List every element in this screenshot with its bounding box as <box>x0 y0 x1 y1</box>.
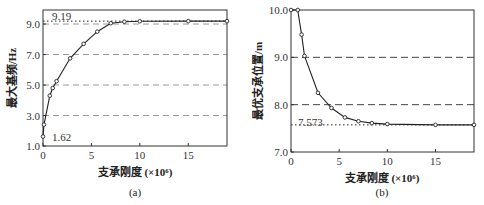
annotation-label: 1.62 <box>52 131 71 143</box>
data-point <box>300 33 304 37</box>
y-axis-title: 最大基频/Hz <box>5 48 18 109</box>
x-tick-label: 15 <box>430 155 442 167</box>
y-tick-label: 9.0 <box>274 51 288 63</box>
data-point <box>51 86 55 90</box>
data-point <box>41 135 45 139</box>
x-tick-label: 5 <box>336 155 342 167</box>
annotation-label: 7.573 <box>298 116 323 128</box>
data-point <box>95 30 99 34</box>
x-axis-title: 支承刚度 (×10⁶) <box>97 165 173 179</box>
data-point <box>316 91 320 95</box>
x-tick-label: 10 <box>134 149 146 161</box>
panel-caption: (b) <box>376 186 389 199</box>
x-tick-label: 0 <box>288 155 294 167</box>
data-point <box>186 19 190 23</box>
data-point <box>68 57 72 61</box>
chart-panel-a: 0510151.03.05.07.09.09.191.62支承刚度 (×10⁶)… <box>5 10 229 199</box>
data-point <box>296 8 300 12</box>
data-point <box>303 54 307 58</box>
data-point <box>225 19 229 23</box>
data-point <box>343 116 347 120</box>
data-point <box>289 8 293 12</box>
x-axis-title: 支承刚度 (×10⁶) <box>344 171 420 185</box>
y-tick-label: 5.0 <box>26 79 40 91</box>
chart-panel-b: 0510157.08.09.010.07.573支承刚度 (×10⁶)最优支承位… <box>251 4 476 199</box>
data-point <box>434 123 438 127</box>
y-tick-label: 7.0 <box>274 146 288 158</box>
data-point <box>42 123 46 127</box>
plot-frame <box>43 10 227 146</box>
figure: 0510151.03.05.07.09.09.191.62支承刚度 (×10⁶)… <box>0 0 484 205</box>
x-tick-label: 5 <box>89 149 95 161</box>
x-tick-label: 10 <box>382 155 394 167</box>
data-point <box>138 19 142 23</box>
data-point <box>370 121 374 125</box>
data-point <box>330 106 334 110</box>
y-axis-title: 最优支承位置/m <box>251 42 264 120</box>
panel-caption: (a) <box>129 186 142 199</box>
series-line <box>291 10 474 125</box>
y-tick-label: 9.0 <box>26 18 40 30</box>
data-point <box>55 79 59 83</box>
y-tick-label: 1.0 <box>26 140 40 152</box>
data-point <box>123 20 127 24</box>
x-tick-label: 0 <box>40 149 46 161</box>
series-line <box>43 21 227 136</box>
data-point <box>48 94 52 98</box>
data-point <box>357 119 361 123</box>
y-tick-label: 10.0 <box>269 4 289 16</box>
y-tick-label: 7.0 <box>26 49 40 61</box>
annotation-label: 9.19 <box>52 10 72 22</box>
data-point <box>109 21 113 25</box>
y-tick-label: 3.0 <box>26 110 40 122</box>
data-point <box>82 42 86 46</box>
data-point <box>386 122 390 126</box>
y-tick-label: 8.0 <box>274 99 288 111</box>
data-point <box>472 123 476 127</box>
plot-frame <box>291 10 474 152</box>
x-tick-label: 15 <box>183 149 195 161</box>
